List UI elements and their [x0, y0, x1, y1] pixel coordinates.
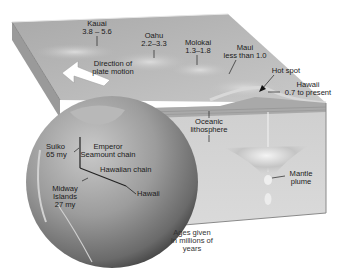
label-plate-motion: Direction of plate motion: [90, 60, 136, 76]
block-top-surface: [12, 14, 326, 103]
label-hot-spot: Hot spot: [266, 67, 306, 75]
label-midway-islands: Midway Islands 27 my: [50, 185, 80, 210]
ages-note: Ages given in millions of years: [168, 229, 216, 254]
label-mantle-plume: Mantle plume: [284, 170, 318, 186]
label-oceanic-lithosphere: Oceanic lithosphere: [186, 118, 232, 134]
label-molokai: Molokai 1.3–1.8: [180, 39, 216, 55]
label-kauai: Kauai 3.8 – 5.6: [80, 20, 114, 36]
label-hawaii-island: Hawaii 0.7 to present: [282, 81, 334, 97]
label-hawaii-globe: Hawaii: [137, 190, 160, 198]
hotspot-diagram: Kauai 3.8 – 5.6 Oahu 2.2–3.3 Molokai 1.3…: [0, 0, 338, 269]
label-emperor-seamount-chain: Emperor Seamount chain: [80, 143, 136, 159]
label-maui: Maui less than 1.0: [222, 44, 268, 60]
label-suiko: Suiko 65 my: [46, 143, 67, 159]
label-hawaiian-chain: Hawaiian chain: [100, 166, 152, 174]
label-oahu: Oahu 2.2–3.3: [138, 32, 170, 48]
